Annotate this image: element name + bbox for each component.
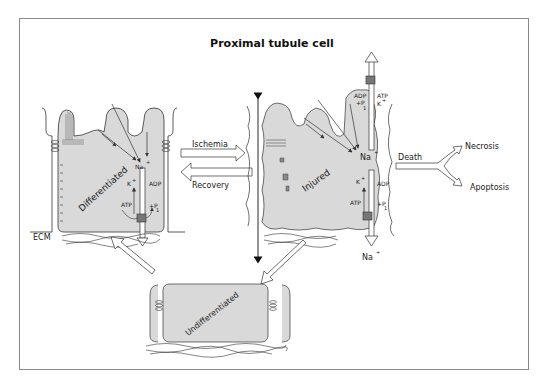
necrosis-label: Necrosis: [465, 142, 499, 151]
diagram-title: Proximal tubule cell: [210, 37, 334, 50]
redifferentiation-arrow: [111, 237, 155, 274]
top-pi-sub: 1: [363, 105, 366, 111]
na-label: Na: [135, 163, 143, 170]
ischemia-label: Ischemia: [192, 140, 228, 149]
death-label: Death: [398, 153, 422, 162]
diagram-canvas: Proximal tubule cell: [0, 0, 544, 380]
k-sup: +: [361, 175, 365, 181]
undifferentiated-cell: Undifferentiated: [146, 284, 290, 357]
death-arrow: Death Necrosis Apoptosis: [396, 142, 509, 192]
pi-sub: 1: [156, 207, 159, 213]
ecm-label: ECM: [33, 233, 51, 242]
pi-sub: 1: [384, 205, 387, 211]
top-k-sup: +: [382, 97, 386, 103]
ischemia-arrow: Ischemia: [181, 140, 245, 161]
differentiated-cell: Na + K + ADP ATP +P 1 Differentiated ECM: [30, 104, 185, 247]
atp-label: ATP: [350, 199, 361, 206]
top-adp-label: ADP: [354, 92, 367, 99]
adp-label: ADP: [377, 180, 390, 187]
out-na-label: Na: [362, 253, 373, 262]
injured-cell: ADP +P 1 ATP K + Na + K + ADP ATP +P 1 N…: [246, 52, 394, 262]
adp-label: ADP: [149, 180, 162, 187]
na-label: Na: [360, 153, 371, 162]
recovery-arrow: Recovery: [181, 163, 252, 190]
apoptosis-label: Apoptosis: [470, 183, 509, 192]
atp-label: ATP: [121, 201, 132, 208]
recovery-label: Recovery: [192, 181, 229, 190]
k-sup: +: [132, 177, 136, 183]
out-na-sup: +: [376, 249, 380, 255]
na-sup: +: [146, 159, 150, 165]
na-sup: +: [374, 149, 378, 155]
dedifferentiation-arrow: [261, 240, 306, 284]
